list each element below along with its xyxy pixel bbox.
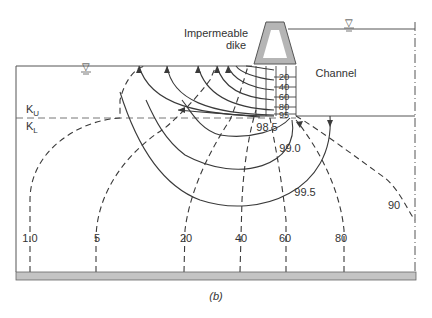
contour-99-0: 99.0	[279, 142, 300, 154]
pile-pct-95: 95	[279, 110, 289, 120]
contour-1-0: 1.0	[22, 232, 37, 244]
contour-80: 80	[335, 232, 347, 244]
contour-20: 20	[180, 232, 192, 244]
water-table-icon-right: ▽	[345, 17, 353, 28]
k-upper-label: KU	[26, 103, 39, 118]
equipotential-lines	[30, 66, 415, 272]
k-lower-label: KL	[26, 120, 38, 135]
dike-label-line1: Impermeable	[184, 27, 248, 39]
water-table-icon-left: ▽	[82, 61, 90, 72]
figure-caption: (b)	[209, 290, 223, 302]
impermeable-dike	[254, 22, 296, 64]
contour-98-5: 98.5	[256, 121, 277, 133]
contour-60: 60	[279, 232, 291, 244]
impermeable-base	[16, 272, 416, 280]
contour-99-5: 99.5	[294, 186, 315, 198]
channel-label: Channel	[316, 67, 357, 79]
contour-40: 40	[235, 232, 247, 244]
flow-net-diagram: ▽ ▽ Impermeabl	[0, 0, 432, 318]
contour-5: 5	[94, 232, 100, 244]
dike-label-line2: dike	[226, 39, 246, 51]
sheet-pile-scale	[256, 66, 296, 116]
contour-90: 90	[388, 199, 400, 211]
